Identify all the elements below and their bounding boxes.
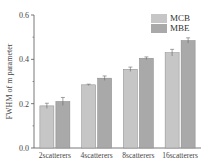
y-axis-label: FWHM of m parameter: [5, 43, 14, 119]
bar-mbe: [56, 101, 70, 148]
bar-mbe: [139, 58, 153, 148]
legend-label-mbe: MBE: [170, 23, 190, 33]
y-tick-label: 0.4: [19, 55, 29, 64]
x-tick-label: 4scatterers: [81, 151, 113, 160]
legend-swatch-mcb: [151, 14, 167, 23]
bar-mcb: [123, 69, 137, 148]
bar-chart: 0.00.20.40.6FWHM of m parameter2scattere…: [0, 0, 211, 168]
y-tick-label: 0.2: [19, 100, 29, 109]
bar-mcb: [165, 53, 179, 148]
bar-mcb: [40, 106, 54, 148]
bar-mbe: [181, 40, 195, 148]
chart-legend: MCB MBE: [151, 13, 190, 33]
bar-mcb: [82, 85, 96, 148]
x-tick-label: 2scatterers: [39, 151, 71, 160]
legend-label-mcb: MCB: [170, 13, 190, 23]
y-tick-label: 0.0: [19, 144, 29, 153]
legend-item-mbe: MBE: [151, 23, 190, 33]
bar-mbe: [98, 78, 112, 148]
x-tick-label: 8scatterers: [122, 151, 154, 160]
legend-swatch-mbe: [151, 24, 167, 33]
legend-item-mcb: MCB: [151, 13, 190, 23]
y-tick-label: 0.6: [19, 11, 29, 20]
x-tick-label: 16scatterers: [162, 151, 198, 160]
